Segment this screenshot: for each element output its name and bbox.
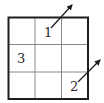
cell-label-3: 3 <box>17 51 25 66</box>
cell-label-2: 2 <box>70 79 78 94</box>
grid-diagram: 1 3 2 <box>0 0 104 103</box>
